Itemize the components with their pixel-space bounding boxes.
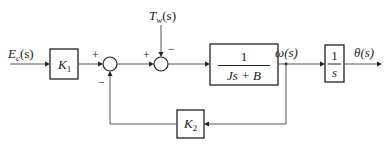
arrow-icon: [98, 62, 103, 67]
summing-junction-2: [154, 57, 168, 71]
arrow-icon: [204, 122, 209, 127]
arrow-icon: [108, 71, 113, 76]
input-signal-label: Ec(s): [7, 46, 34, 63]
arrow-icon: [377, 62, 382, 67]
plant-denominator: Js + B: [227, 68, 261, 83]
sum1-minus-sign: −: [98, 75, 105, 89]
disturbance-signal-label: Tw(s): [149, 8, 176, 25]
arrow-icon: [159, 52, 164, 57]
integrator-denominator: s: [332, 65, 337, 80]
arrow-icon: [149, 62, 154, 67]
feedback-wire-left: [110, 73, 177, 124]
arrow-icon: [205, 62, 210, 67]
plant-numerator: 1: [241, 49, 248, 64]
arrow-icon: [45, 62, 50, 67]
arrow-icon: [320, 62, 325, 67]
sum2-minus-sign: −: [168, 42, 175, 56]
omega-signal-label: ω(s): [275, 45, 298, 60]
output-signal-label: θ(s): [354, 45, 374, 60]
integrator-numerator: 1: [331, 48, 338, 63]
sum2-plus-sign: +: [143, 48, 150, 62]
summing-junction-1: [103, 57, 117, 71]
block-diagram: Ec(s) K1 + − + − Tw(s) 1 Js + B ω(s) 1 s…: [0, 0, 385, 146]
sum1-plus-sign: +: [92, 48, 99, 62]
